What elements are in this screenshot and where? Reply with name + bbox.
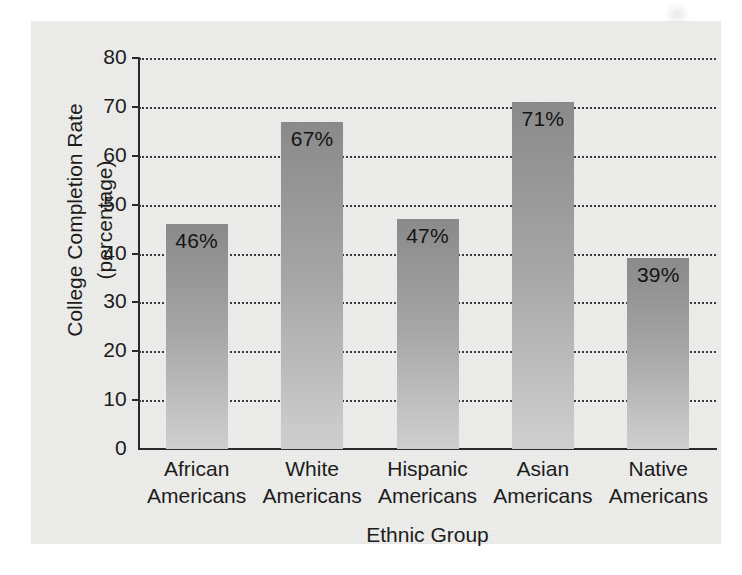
x-axis-category-label: AfricanAmericans [139, 455, 254, 509]
gridline [139, 156, 716, 158]
x-axis-title: Ethnic Group [139, 523, 716, 547]
y-axis-tick-mark [132, 301, 139, 303]
x-axis-category-label: NativeAmericans [601, 455, 716, 509]
y-axis-tick-mark [132, 350, 139, 352]
category-label-line-2: Americans [139, 482, 254, 509]
y-axis-tick-mark [132, 155, 139, 157]
category-label-line-1: Hispanic [370, 455, 485, 482]
gridline [139, 205, 716, 207]
bar-value-label: 46% [166, 229, 228, 253]
category-label-line-1: Asian [485, 455, 600, 482]
bar-chart: 46%67%47%71%39% 01020304050607080 Africa… [0, 0, 742, 575]
x-axis-category-label: AsianAmericans [485, 455, 600, 509]
bar-value-label: 67% [281, 127, 343, 151]
category-label-line-1: Native [601, 455, 716, 482]
bar-value-label: 71% [512, 107, 574, 131]
bar-value-label: 47% [397, 224, 459, 248]
y-axis-title-line-2: (percentage) [90, 70, 120, 370]
y-axis-tick-label: 10 [81, 387, 127, 411]
category-label-line-2: Americans [254, 482, 369, 509]
bar: 71% [512, 102, 574, 449]
bar: 39% [627, 258, 689, 449]
y-axis-tick-mark [132, 399, 139, 401]
x-axis-category-label: HispanicAmericans [370, 455, 485, 509]
y-axis-tick-label: 0 [81, 436, 127, 460]
x-axis-category-label: WhiteAmericans [254, 455, 369, 509]
bar: 67% [281, 122, 343, 449]
category-label-line-2: Americans [370, 482, 485, 509]
y-axis-title-line-1: College Completion Rate [60, 70, 90, 370]
y-axis-tick-mark [132, 106, 139, 108]
y-axis-tick-label: 80 [81, 45, 127, 69]
y-axis-tick-mark [132, 204, 139, 206]
y-axis-title: College Completion Rate (percentage) [60, 70, 120, 370]
gridline [139, 58, 716, 60]
plot-area: 46%67%47%71%39% [139, 58, 716, 449]
gridline [139, 107, 716, 109]
category-label-line-1: African [139, 455, 254, 482]
bar-value-label: 39% [627, 263, 689, 287]
y-axis-tick-mark [132, 253, 139, 255]
bar: 47% [397, 219, 459, 449]
category-label-line-1: White [254, 455, 369, 482]
y-axis-tick-mark [132, 57, 139, 59]
bar: 46% [166, 224, 228, 449]
category-label-line-2: Americans [601, 482, 716, 509]
screenshot-page: 46%67%47%71%39% 01020304050607080 Africa… [0, 0, 742, 575]
category-label-line-2: Americans [485, 482, 600, 509]
